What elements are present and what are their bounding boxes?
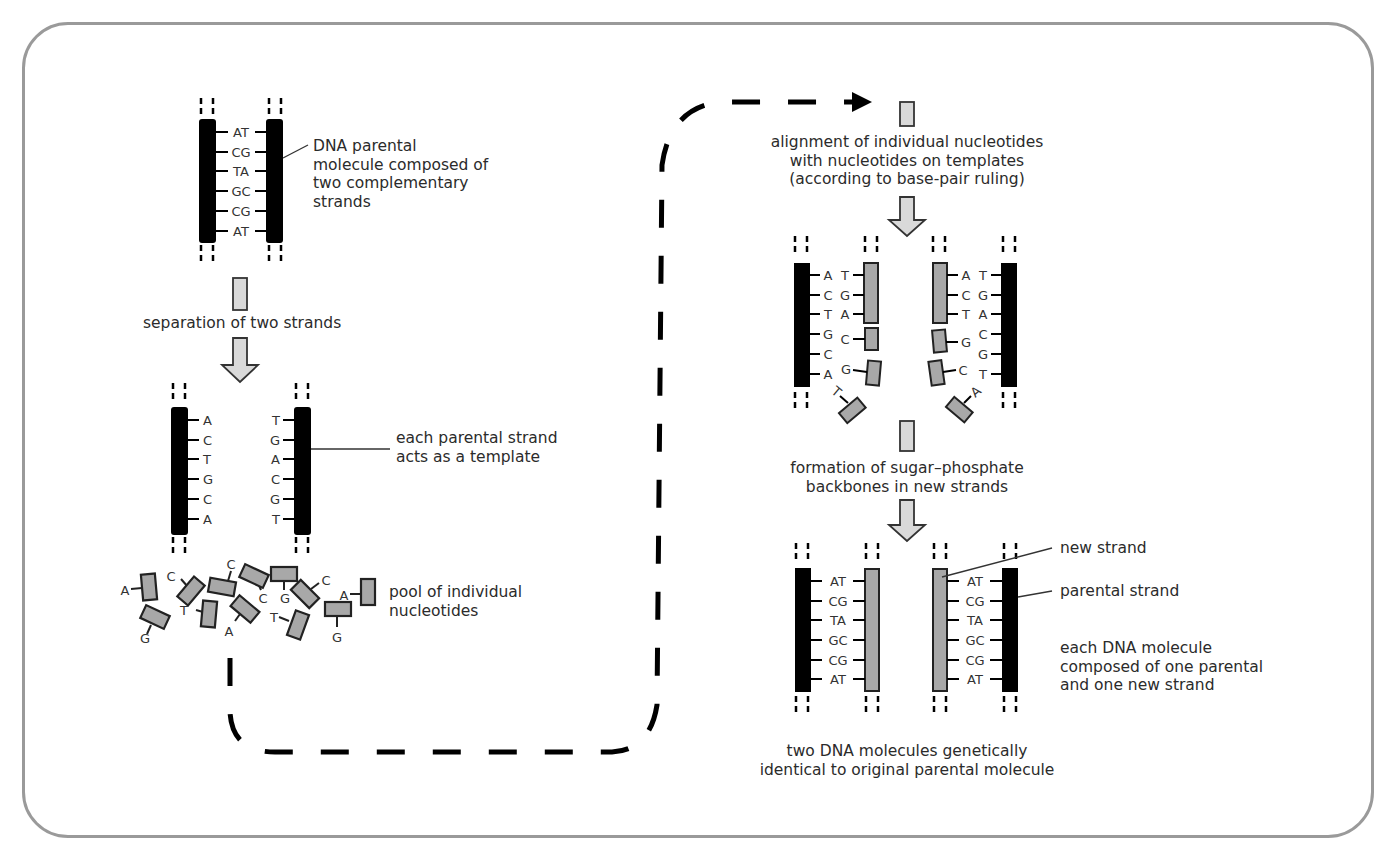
alignment-stage: A C T G C A T G A C G T A C T G C A T G … <box>794 236 1017 423</box>
label-separation: separation of two strands <box>143 314 341 333</box>
svg-text:C: C <box>321 573 330 588</box>
svg-text:AT: AT <box>967 672 983 687</box>
svg-text:AT: AT <box>830 672 846 687</box>
label-new-strand: new strand <box>1060 539 1147 558</box>
svg-text:C: C <box>226 557 235 572</box>
label-result: two DNA molecules genetically identical … <box>742 742 1072 779</box>
svg-text:AT: AT <box>830 574 846 589</box>
svg-text:C: C <box>203 492 212 507</box>
svg-text:A: A <box>979 307 988 322</box>
svg-text:G: G <box>280 591 290 606</box>
svg-text:G: G <box>140 631 150 646</box>
svg-text:TA: TA <box>966 613 983 628</box>
svg-text:C: C <box>258 591 267 606</box>
svg-text:A: A <box>203 512 212 527</box>
final-molecules: AT CG TA GC CG AT AT CG TA GC CG AT <box>795 543 1052 716</box>
svg-text:AT: AT <box>967 574 983 589</box>
svg-text:G: G <box>270 492 280 507</box>
svg-text:C: C <box>978 327 987 342</box>
label-formation: formation of sugar–phosphate backbones i… <box>777 459 1037 496</box>
svg-text:T: T <box>271 413 280 428</box>
svg-text:CG: CG <box>231 204 250 219</box>
svg-text:A: A <box>841 307 850 322</box>
svg-text:AT: AT <box>233 125 249 140</box>
label-parental-strand: parental strand <box>1060 582 1179 601</box>
svg-text:G: G <box>841 362 851 377</box>
svg-text:A: A <box>962 268 971 283</box>
svg-text:G: G <box>270 433 280 448</box>
svg-text:C: C <box>271 472 280 487</box>
svg-text:A: A <box>225 624 234 639</box>
svg-text:T: T <box>961 307 970 322</box>
svg-text:T: T <box>840 268 849 283</box>
svg-text:G: G <box>978 288 988 303</box>
svg-text:T: T <box>202 452 211 467</box>
label-parental-molecule: DNA parental molecule composed of two co… <box>313 137 488 211</box>
svg-text:CG: CG <box>828 594 847 609</box>
svg-text:C: C <box>166 569 175 584</box>
svg-text:TA: TA <box>829 613 846 628</box>
svg-text:C: C <box>840 332 849 347</box>
label-each-molecule: each DNA molecule composed of one parent… <box>1060 639 1263 695</box>
svg-text:GC: GC <box>965 633 984 648</box>
svg-text:T: T <box>978 268 987 283</box>
separated-templates: A C T G C A T G A C G T <box>171 383 390 557</box>
svg-text:G: G <box>978 347 988 362</box>
svg-text:CG: CG <box>828 653 847 668</box>
replication-diagram: AT CG TA GC CG AT A <box>0 0 1396 855</box>
svg-text:G: G <box>840 288 850 303</box>
svg-text:A: A <box>340 588 349 603</box>
svg-text:C: C <box>958 363 967 378</box>
svg-text:C: C <box>823 288 832 303</box>
svg-text:A: A <box>824 367 833 382</box>
svg-text:A: A <box>121 583 130 598</box>
svg-text:T: T <box>269 610 278 625</box>
svg-text:T: T <box>271 512 280 527</box>
svg-text:GC: GC <box>828 633 847 648</box>
svg-text:C: C <box>203 433 212 448</box>
svg-text:T: T <box>179 603 188 618</box>
svg-text:G: G <box>961 335 971 350</box>
svg-text:T: T <box>823 307 832 322</box>
svg-text:CG: CG <box>965 653 984 668</box>
svg-text:TA: TA <box>232 164 249 179</box>
label-alignment: alignment of individual nucleotides with… <box>757 133 1057 189</box>
svg-text:A: A <box>203 413 212 428</box>
svg-text:A: A <box>824 268 833 283</box>
svg-text:GC: GC <box>231 184 250 199</box>
svg-text:C: C <box>961 288 970 303</box>
svg-text:G: G <box>203 472 213 487</box>
label-template: each parental strand acts as a template <box>396 429 558 466</box>
svg-text:G: G <box>332 630 342 645</box>
parental-molecule: AT CG TA GC CG AT <box>199 98 308 265</box>
svg-text:T: T <box>978 367 987 382</box>
svg-text:CG: CG <box>231 145 250 160</box>
svg-text:G: G <box>823 327 833 342</box>
label-pool: pool of individual nucleotides <box>389 583 522 620</box>
svg-text:AT: AT <box>233 224 249 239</box>
svg-text:CG: CG <box>965 594 984 609</box>
nucleotide-pool: A C T C C G C A G T A G <box>121 557 375 646</box>
svg-text:A: A <box>271 452 280 467</box>
svg-text:C: C <box>823 347 832 362</box>
